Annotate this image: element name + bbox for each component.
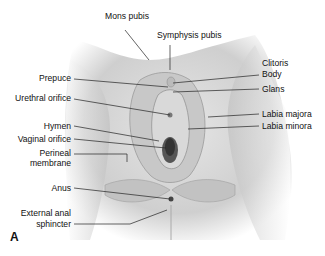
label-mons-pubis: Mons pubis [105,11,149,21]
panel-letter: A [10,230,19,244]
label-urethral-orifice: Urethral orifice [15,93,71,103]
label-clitoris-body: Body [262,69,282,79]
label-vaginal-orifice: Vaginal orifice [18,134,71,144]
label-symphysis-pubis: Symphysis pubis [157,30,221,40]
anatomy-figure: Mons pubis Symphysis pubis Clitoris Body… [0,0,325,256]
label-hymen: Hymen [44,121,71,131]
label-glans: Glans [262,84,284,94]
label-clitoris: Clitoris [262,58,288,68]
label-labia-majora: Labia majora [262,109,312,119]
label-external-anal-sphincter-line2: sphincter [36,219,71,229]
label-perineal-membrane-line1: Perineal [39,148,71,158]
label-labia-minora: Labia minora [262,121,312,131]
label-anus: Anus [51,183,71,193]
label-prepuce: Prepuce [39,73,71,83]
label-external-anal-sphincter-line1: External anal [21,208,71,218]
label-perineal-membrane-line2: membrane [30,158,71,168]
